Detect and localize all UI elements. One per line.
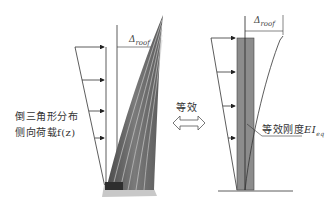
right-panel <box>211 15 302 191</box>
roof-displacement-label-right: Δroof <box>254 15 275 28</box>
equivalent-stiffness-diagram <box>0 0 328 213</box>
equivalence-label: 等效 <box>176 99 197 114</box>
equivalent-cantilever-column <box>237 38 254 190</box>
double-arrow-icon <box>173 116 205 130</box>
triangular-load-diagram-equivalent <box>211 38 237 190</box>
roof-displacement-label-left: Δroof <box>129 34 150 47</box>
load-label-line2: 侧向荷载f(z) <box>15 124 76 139</box>
load-label-line1: 倒三角形分布 <box>15 108 78 123</box>
equivalent-stiffness-label: 等效刚度EIeq <box>262 121 325 137</box>
triangular-load-diagram <box>75 47 106 192</box>
